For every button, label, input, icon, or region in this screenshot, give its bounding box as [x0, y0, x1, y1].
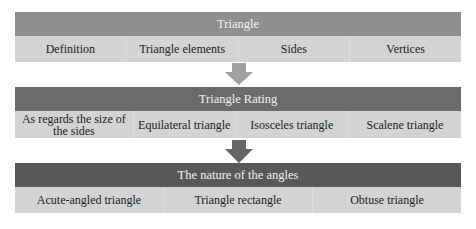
section-items-row: Acute-angled triangle Triangle rectangle…	[15, 187, 461, 213]
down-arrow-icon	[225, 63, 253, 85]
section-header: Triangle	[15, 12, 461, 36]
item-triangle-elements: Triangle elements	[127, 36, 239, 62]
section-items-row: As regards the size of the sides Equilat…	[15, 111, 461, 138]
down-arrow-icon	[225, 140, 253, 163]
section-header: Triangle Rating	[15, 87, 461, 111]
item-equilateral: Equilateral triangle	[134, 111, 236, 138]
item-obtuse: Obtuse triangle	[313, 187, 461, 213]
section-items-row: Definition Triangle elements Sides Verti…	[15, 36, 461, 62]
item-sides: Sides	[239, 36, 351, 62]
section-header: The nature of the angles	[15, 163, 461, 187]
item-acute-angled: Acute-angled triangle	[15, 187, 164, 213]
section-triangle-rating: Triangle Rating As regards the size of t…	[15, 87, 461, 138]
section-triangle: Triangle Definition Triangle elements Si…	[15, 12, 461, 62]
section-nature-of-angles: The nature of the angles Acute-angled tr…	[15, 163, 461, 213]
item-vertices: Vertices	[350, 36, 461, 62]
item-size-of-sides: As regards the size of the sides	[15, 111, 134, 138]
item-scalene: Scalene triangle	[349, 111, 461, 138]
item-isosceles: Isosceles triangle	[236, 111, 349, 138]
item-triangle-rectangle: Triangle rectangle	[164, 187, 313, 213]
item-definition: Definition	[15, 36, 127, 62]
